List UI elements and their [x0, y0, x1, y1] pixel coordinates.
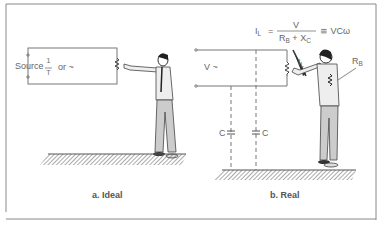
capacitor-left-label: C: [219, 128, 226, 138]
voltage-label: V ~: [204, 62, 218, 72]
capacitor-right-label: C: [262, 128, 269, 138]
formula-equals: =: [268, 26, 273, 36]
formula-approx: ≅ VCω: [320, 26, 350, 36]
caption-real: b. Real: [270, 190, 300, 200]
person-ideal: [124, 53, 178, 158]
formula-lhs: IL: [255, 26, 261, 37]
formula-denominator: RB + XC: [279, 33, 311, 44]
freq-numerator: 1: [45, 56, 52, 65]
source-label: Source: [15, 61, 44, 71]
current-label: IL: [298, 57, 304, 68]
freq-denominator: T: [45, 68, 52, 77]
formula-numerator: V: [293, 20, 299, 30]
body-resistance-label: RB: [352, 56, 363, 67]
freq-or-label: or ~: [58, 62, 74, 72]
ground-real: [213, 170, 356, 180]
caption-ideal: a. Ideal: [92, 190, 123, 200]
ground-ideal: [40, 154, 186, 165]
